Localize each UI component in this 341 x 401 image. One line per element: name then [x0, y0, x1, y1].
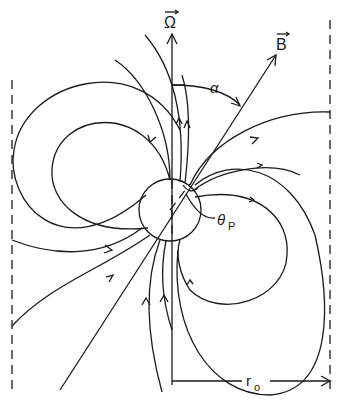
rotation-axis-label: Ω — [164, 10, 178, 31]
field-line-upper-left-outer — [13, 82, 180, 228]
svg-text:α: α — [210, 79, 219, 96]
field-line-open-upper-2 — [145, 35, 182, 182]
light-cylinder-radius-marker: r o — [172, 372, 330, 393]
svg-text:θ: θ — [217, 211, 225, 228]
oblique-rotator-diagram: Ω B α θ — [0, 0, 341, 401]
svg-text:o: o — [254, 381, 260, 393]
svg-text:r: r — [246, 372, 251, 389]
field-line-lower-right-inner — [178, 195, 287, 305]
field-line-upper-left-inner — [52, 123, 170, 229]
star-circle — [139, 179, 201, 241]
svg-text:Ω: Ω — [164, 14, 176, 31]
polar-cap-angle-label: θ P — [186, 194, 235, 232]
svg-text:P: P — [228, 220, 235, 232]
field-line-open-upper-3 — [182, 75, 190, 183]
magnetic-axis-label: B — [276, 32, 289, 53]
alpha-angle-arc: α — [172, 79, 240, 106]
field-line-open-lower-1 — [12, 235, 150, 326]
field-line-open-lower-4 — [160, 241, 172, 330]
svg-text:B: B — [276, 36, 287, 53]
field-line-open-lower-2 — [12, 228, 142, 253]
field-line-open-upper-4 — [190, 112, 330, 185]
field-line-open-lower-3 — [142, 240, 162, 392]
field-line-open-upper-1 — [115, 60, 170, 180]
